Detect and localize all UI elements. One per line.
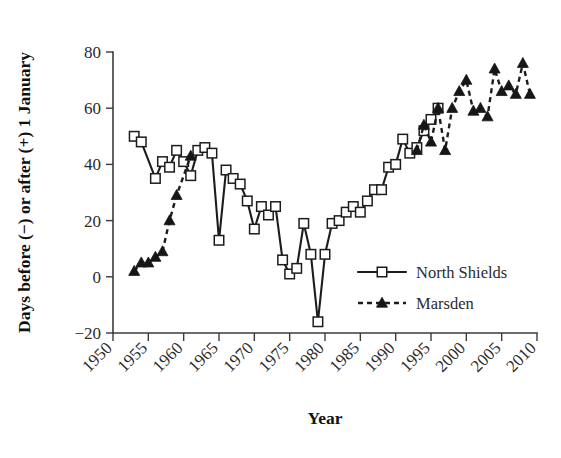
data-point-marker	[313, 317, 323, 327]
data-point-marker	[489, 63, 500, 73]
data-point-marker	[151, 174, 161, 184]
x-axis-tick-label: 2000	[432, 338, 469, 375]
y-axis-tick-label: 40	[84, 155, 101, 174]
chart-series-layer	[129, 57, 536, 326]
chart-legend: North ShieldsMarsden	[358, 263, 507, 313]
data-point-marker	[164, 215, 175, 225]
data-point-marker	[524, 88, 535, 98]
x-axis-tick-label: 2005	[467, 338, 504, 375]
x-axis-title: Year	[308, 408, 343, 428]
data-point-marker	[171, 190, 182, 200]
data-point-marker	[475, 102, 486, 112]
data-point-marker	[363, 196, 373, 206]
y-axis-tick-label: 20	[84, 212, 101, 231]
legend-item: North Shields	[358, 263, 507, 282]
y-axis-tick-label: 0	[93, 268, 102, 287]
data-point-marker	[447, 102, 458, 112]
data-point-marker	[426, 136, 437, 146]
chart-canvas: −200204060801950195519601965197019751980…	[0, 0, 561, 458]
data-point-marker	[207, 148, 217, 158]
legend-label: Marsden	[416, 294, 474, 313]
series-line	[134, 108, 438, 322]
x-axis-tick-label: 2010	[502, 338, 539, 375]
x-axis-tick-label: 1980	[290, 338, 327, 375]
data-point-marker	[299, 219, 309, 229]
x-axis-tick-label: 1970	[220, 338, 257, 375]
x-axis-tick-label: 1965	[184, 338, 221, 375]
data-point-marker	[440, 145, 451, 155]
x-axis-tick-label: 1985	[326, 338, 363, 375]
chart-axis-titles: Days before (−) or after (+) 1 JanuaryYe…	[14, 52, 343, 428]
data-point-marker	[461, 74, 472, 84]
y-axis-tick-label: 80	[84, 43, 101, 62]
x-axis-tick-label: 1955	[114, 338, 151, 375]
chart-figure: −200204060801950195519601965197019751980…	[0, 0, 561, 458]
data-point-marker	[165, 162, 175, 172]
data-point-marker	[391, 160, 401, 170]
legend-label: North Shields	[416, 263, 507, 282]
data-point-marker	[271, 202, 281, 212]
x-axis-tick-label: 1975	[255, 338, 292, 375]
data-point-marker	[306, 250, 316, 260]
data-point-marker	[356, 207, 366, 217]
data-point-marker	[137, 137, 147, 147]
data-point-marker	[517, 57, 528, 67]
data-point-marker	[377, 185, 387, 195]
x-axis-tick-label: 1950	[78, 338, 115, 375]
data-point-marker	[157, 246, 168, 256]
data-point-marker	[398, 134, 408, 144]
y-axis-title: Days before (−) or after (+) 1 January	[14, 52, 34, 333]
data-point-marker	[186, 171, 196, 181]
data-point-marker	[243, 196, 253, 206]
chart-series	[129, 103, 442, 326]
x-axis-tick-label: 1995	[396, 338, 433, 375]
data-point-marker	[235, 179, 245, 189]
y-axis-tick-label: 60	[84, 99, 101, 118]
data-point-marker	[214, 236, 224, 246]
data-point-marker	[503, 80, 514, 90]
data-point-marker	[172, 146, 182, 156]
x-axis-tick-label: 1990	[361, 338, 398, 375]
chart-series	[129, 57, 536, 275]
x-axis-tick-label: 1960	[149, 338, 186, 375]
data-point-marker	[278, 255, 288, 265]
data-point-marker	[377, 267, 387, 277]
data-point-marker	[250, 224, 259, 234]
y-axis-tick-label: −20	[74, 324, 101, 343]
data-point-marker	[454, 86, 465, 96]
legend-item: Marsden	[358, 294, 474, 313]
data-point-marker	[292, 264, 302, 274]
data-point-marker	[320, 250, 330, 260]
